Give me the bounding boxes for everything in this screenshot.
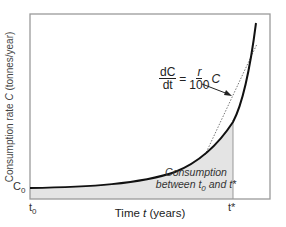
lhs-fraction: dC dt bbox=[159, 66, 176, 91]
arrow-head bbox=[224, 90, 232, 96]
x-axis-label: Time t (years) bbox=[115, 207, 186, 219]
rhs-fraction: r 100 bbox=[189, 66, 209, 91]
chart-canvas bbox=[0, 0, 286, 227]
x-tick-t0: t0 bbox=[29, 201, 37, 216]
x-tick-tstar: t* bbox=[228, 201, 235, 213]
area-annotation: Consumption between t0 and t* bbox=[156, 166, 236, 195]
y-axis-label: Consumption rate C (tonnes/year) bbox=[4, 32, 15, 183]
y-tick-c0: C0 bbox=[13, 180, 25, 195]
growth-equation: dC dt = r 100 C bbox=[159, 66, 220, 91]
